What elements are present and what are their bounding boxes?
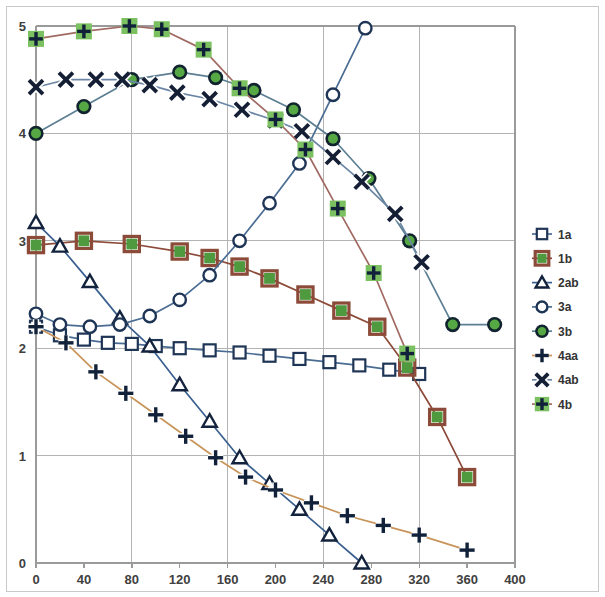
marker-4ab — [203, 92, 217, 106]
y-tick-label: 3 — [19, 234, 26, 249]
marker-4ab — [355, 175, 369, 189]
marker-4ab — [59, 73, 73, 87]
legend-marker-4b — [535, 397, 549, 411]
marker-4ab — [235, 103, 249, 117]
legend-marker-3a — [537, 302, 548, 313]
legend-marker-4ab — [536, 374, 549, 387]
marker-4ab — [115, 73, 129, 87]
marker-3b — [286, 102, 301, 117]
marker-1b — [124, 236, 139, 251]
marker-4ab — [295, 124, 309, 138]
marker-4b — [330, 201, 346, 217]
marker-1a — [102, 337, 114, 349]
marker-4b — [76, 23, 92, 39]
marker-4ab — [89, 73, 103, 87]
legend-label-3a: 3a — [558, 300, 572, 314]
marker-3a — [263, 197, 275, 209]
line-chart: 04080120160200240280320360400 012345 1a1… — [0, 0, 605, 597]
marker-1b — [202, 250, 217, 265]
marker-3a — [84, 321, 96, 333]
legend-entry-1a[interactable]: 1a — [532, 228, 572, 242]
marker-1a — [204, 344, 216, 356]
x-tick-label: 360 — [456, 572, 478, 587]
marker-3a — [327, 89, 339, 101]
marker-4aa — [178, 429, 193, 444]
marker-4aa — [376, 518, 391, 533]
legend-entry-2ab[interactable]: 2ab — [532, 276, 579, 290]
marker-3b — [28, 126, 43, 141]
marker-3a — [30, 308, 42, 320]
legend-label-2ab: 2ab — [558, 276, 579, 290]
series-line-2ab — [36, 223, 362, 563]
marker-3b — [487, 317, 502, 332]
marker-3a — [359, 22, 371, 34]
marker-3a — [203, 269, 215, 281]
marker-3a — [144, 310, 156, 322]
marker-1b — [172, 244, 187, 259]
marker-1b — [232, 259, 247, 274]
marker-1a — [353, 359, 365, 371]
legend-entry-4ab[interactable]: 4ab — [532, 373, 579, 387]
marker-4b — [154, 21, 170, 37]
chart-legend: 1a1b2ab3a3b4aa4ab4b — [532, 228, 579, 412]
marker-1a — [383, 364, 395, 376]
marker-1b — [370, 319, 385, 334]
x-tick-label: 0 — [32, 572, 39, 587]
marker-1b — [400, 360, 415, 375]
marker-1a — [78, 334, 90, 346]
x-tick-label: 160 — [217, 572, 239, 587]
legend-entry-4aa[interactable]: 4aa — [532, 349, 578, 363]
legend-marker-4aa — [535, 349, 549, 363]
marker-4b — [268, 111, 284, 127]
marker-1b — [298, 287, 313, 302]
x-tick-label: 280 — [360, 572, 382, 587]
legend-label-1a: 1a — [558, 228, 572, 242]
x-tick-label: 200 — [265, 572, 287, 587]
legend-entry-1b[interactable]: 1b — [532, 252, 572, 266]
legend-marker-3b — [535, 324, 549, 338]
marker-1a — [234, 346, 246, 358]
y-tick-label: 5 — [19, 19, 26, 34]
marker-4ab — [415, 255, 429, 269]
series-line-4ab — [36, 80, 422, 263]
y-tick-label: 2 — [19, 341, 26, 356]
legend-label-3b: 3b — [558, 325, 572, 339]
marker-4ab — [29, 80, 43, 94]
y-tick-label: 0 — [19, 556, 26, 571]
marker-4b — [297, 142, 313, 158]
marker-4b — [366, 265, 382, 281]
x-tick-label: 120 — [169, 572, 191, 587]
y-tick-label: 1 — [19, 449, 26, 464]
marker-1b — [334, 303, 349, 318]
marker-1a — [323, 356, 335, 368]
marker-3b — [208, 70, 223, 85]
marker-1a — [126, 338, 138, 350]
marker-1b — [430, 409, 445, 424]
legend-marker-1a — [537, 229, 547, 239]
marker-4aa — [340, 508, 355, 523]
marker-3b — [325, 131, 340, 146]
marker-1a — [264, 350, 276, 362]
x-tick-label: 80 — [125, 572, 139, 587]
marker-4aa — [304, 495, 319, 510]
series-2ab — [29, 216, 369, 569]
marker-3b — [445, 317, 460, 332]
x-tick-label: 40 — [77, 572, 91, 587]
legend-label-4aa: 4aa — [558, 349, 578, 363]
marker-3a — [54, 318, 66, 330]
legend-entry-4b[interactable]: 4b — [532, 397, 572, 412]
legend-label-4ab: 4ab — [558, 373, 579, 387]
marker-1b — [28, 237, 43, 252]
marker-1a — [293, 353, 305, 365]
marker-4aa — [118, 386, 133, 401]
marker-4ab — [143, 78, 157, 92]
legend-entry-3a[interactable]: 3a — [532, 300, 572, 314]
y-axis-tick-labels: 012345 — [19, 19, 27, 571]
marker-4b — [121, 18, 137, 34]
legend-entry-3b[interactable]: 3b — [532, 324, 572, 338]
x-tick-label: 240 — [313, 572, 335, 587]
marker-4ab — [388, 207, 402, 221]
marker-3a — [233, 235, 245, 247]
legend-label-1b: 1b — [558, 252, 572, 266]
marker-4b — [232, 80, 248, 96]
